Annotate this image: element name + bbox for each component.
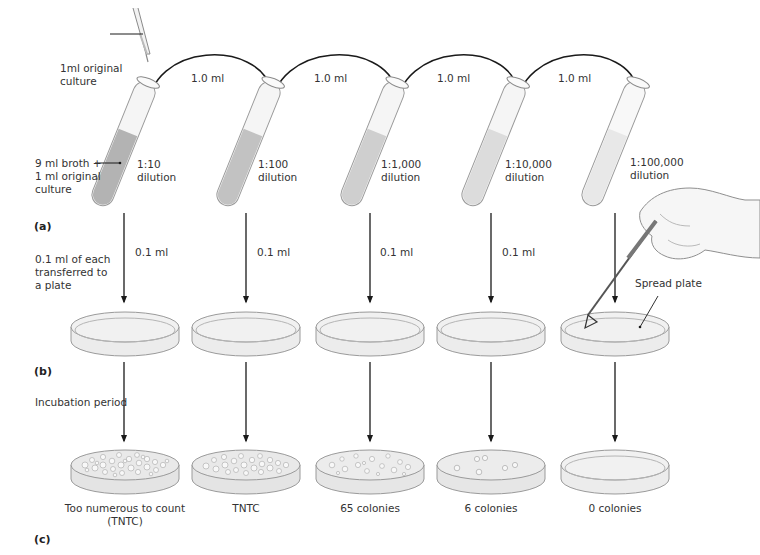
transfer-label-3: 1.0 ml [437,72,470,85]
transfer-label-2: 1.0 ml [314,72,347,85]
plate-b-1 [71,312,179,356]
plate-b-4 [437,312,545,356]
plate-volume-label-3: 0.1 ml [380,246,413,259]
result-label-4: 6 colonies [464,502,517,515]
plate-volume-label-1: 0.1 ml [135,246,168,259]
dilution-label-5: 1:100,000dilution [630,156,684,182]
tube1-contents-label: 9 ml broth + 1 ml original culture [35,157,102,196]
panel-label-c: (c) [34,533,51,546]
plate-volume-label-2: 0.1 ml [257,246,290,259]
transfer-label-4: 1.0 ml [558,72,591,85]
dilution-label-2: 1:100dilution [258,158,297,184]
panel-label-a: (a) [34,220,51,233]
dilution-label-1: 1:10dilution [137,158,176,184]
panel-label-b: (b) [34,365,52,378]
plate-c-5 [561,450,669,494]
tube-5 [578,74,651,209]
spread-plate-label: Spread plate [635,277,702,290]
hand-with-spreader-icon [585,188,760,328]
result-label-3: 65 colonies [340,502,400,515]
plates-row-b [71,312,669,356]
plate-b-5 [561,312,669,356]
transfer-to-plate-label: 0.1 ml of each transferred to a plate [35,253,110,292]
plating-arrows [124,213,615,302]
dilution-label-4: 1:10,000dilution [505,158,552,184]
plate-volume-label-4: 0.1 ml [502,246,535,259]
tube-2 [213,74,286,209]
incubation-label: Incubation period [35,396,127,409]
tube-3 [337,74,410,209]
plates-row-c [71,450,669,494]
plate-c-4 [437,450,545,494]
result-label-5: 0 colonies [588,502,641,515]
plate-b-2 [192,312,300,356]
tube-4 [458,74,531,209]
transfer-label-1: 1.0 ml [191,72,224,85]
plate-c-3 [316,450,424,494]
plate-b-3 [316,312,424,356]
plate-c-1 [71,450,179,494]
dilution-label-3: 1:1,000dilution [381,158,421,184]
result-label-1: Too numerous to count(TNTC) [65,502,185,528]
incubation-arrows [124,362,615,441]
pipette-icon [133,8,150,62]
plate-c-2 [192,450,300,494]
pipette-label: 1ml original culture [60,62,122,88]
result-label-2: TNTC [232,502,259,515]
